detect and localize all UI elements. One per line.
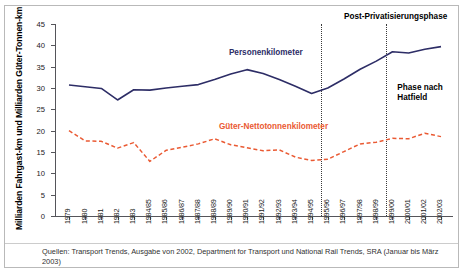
- plot-area: 051015202530354045 197919801981198219831…: [55, 24, 453, 216]
- hatfield-annotation-line2: Hatfield: [397, 93, 443, 103]
- y-tick-label: 10: [37, 169, 45, 178]
- y-tick: 0: [51, 216, 55, 217]
- figure-root: Milliarden Fahrgast-km und Milliarden Gü…: [0, 0, 464, 274]
- y-tick-label: 25: [37, 105, 45, 114]
- source-separator: [5, 243, 458, 244]
- source-note: Quellen: Transport Trends, Ausgabe von 2…: [42, 247, 452, 267]
- hatfield-annotation-line1: Phase nach: [397, 83, 443, 93]
- y-tick-label: 0: [41, 212, 45, 221]
- y-tick-label: 40: [37, 41, 45, 50]
- y-tick-label: 15: [37, 148, 45, 157]
- y-tick-label: 5: [41, 190, 45, 199]
- freight-line: [69, 131, 441, 162]
- passenger-series-label: Personenkilometer: [229, 48, 303, 58]
- y-tick-label: 45: [37, 20, 45, 29]
- y-tick-label: 30: [37, 84, 45, 93]
- hatfield-annotation: Phase nach Hatfield: [397, 83, 443, 104]
- y-tick-label: 35: [37, 62, 45, 71]
- freight-series-label: Güter-Nettotonnenkilometer: [219, 122, 328, 132]
- y-axis-title: Milliarden Fahrgast-km und Milliarden Gü…: [14, 20, 24, 230]
- post-privatisation-annotation: Post-Privatisierungsphase: [344, 12, 447, 22]
- y-tick-label: 20: [37, 126, 45, 135]
